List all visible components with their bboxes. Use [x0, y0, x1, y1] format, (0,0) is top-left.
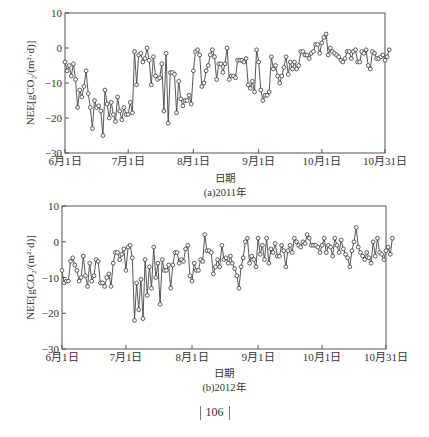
page-number: 106 [0, 405, 429, 420]
data-point [224, 256, 228, 260]
data-point [190, 279, 194, 283]
data-point [288, 243, 292, 247]
data-point [177, 79, 181, 83]
data-point [202, 81, 206, 85]
page-number-bar-right [229, 406, 230, 420]
data-point [143, 258, 147, 262]
data-point [128, 243, 132, 247]
data-point [250, 254, 254, 258]
data-point [133, 50, 137, 54]
data-point [328, 46, 332, 50]
data-point [152, 55, 156, 59]
data-point [253, 90, 257, 94]
data-point [69, 74, 73, 78]
data-point [133, 319, 137, 323]
data-point [187, 93, 191, 97]
data-point [73, 263, 77, 267]
data-point [365, 251, 369, 255]
data-point [312, 50, 316, 54]
data-point [235, 274, 239, 278]
x-tick-label: 7月1日 [112, 155, 145, 167]
y-tick-label: −20 [45, 112, 63, 124]
data-point [385, 55, 389, 59]
data-point [373, 254, 377, 258]
data-point [219, 62, 223, 66]
data-point [350, 249, 354, 253]
data-point [154, 276, 158, 280]
data-point [143, 57, 147, 61]
data-point [179, 97, 183, 101]
data-point [274, 64, 278, 68]
data-point [175, 111, 179, 115]
data-point [84, 69, 88, 73]
data-point [318, 51, 322, 55]
data-point [107, 272, 111, 276]
figure-caption: (b)2012年 [202, 381, 245, 394]
data-point [109, 100, 113, 104]
data-point [211, 48, 215, 52]
data-point [186, 243, 190, 247]
data-point [160, 258, 164, 262]
data-point [290, 251, 294, 255]
data-point [303, 242, 307, 246]
data-point [76, 106, 80, 110]
data-point [182, 260, 186, 264]
y-tick-label: −10 [42, 272, 60, 284]
data-point [122, 247, 126, 251]
data-point [165, 269, 169, 273]
data-point [291, 67, 295, 71]
data-point [361, 254, 365, 258]
y-axis-label: NEE[gCO₂/(m²·d)] [24, 235, 37, 320]
data-point [92, 274, 96, 278]
data-point [261, 99, 265, 103]
data-point [225, 46, 229, 50]
data-point [116, 95, 120, 99]
data-point [65, 69, 69, 73]
x-axis-label: 日期 [214, 368, 234, 379]
data-point [386, 245, 390, 249]
figure: −30−20−100106月1日7月1日8月1日9月1日10月1日10月31日N… [0, 0, 429, 437]
data-point [80, 95, 84, 99]
data-point [383, 58, 387, 62]
data-point [252, 258, 256, 262]
data-point [118, 109, 122, 113]
data-point [162, 109, 166, 113]
data-point [316, 245, 320, 249]
data-point [320, 41, 324, 45]
data-point [322, 36, 326, 40]
plot-frame [62, 206, 386, 349]
data-point [335, 243, 339, 247]
data-point [329, 245, 333, 249]
data-point [197, 269, 201, 273]
data-point [145, 294, 149, 298]
data-point [211, 272, 215, 276]
data-point [248, 261, 252, 265]
data-point [244, 57, 248, 61]
data-point [93, 99, 97, 103]
data-point [276, 74, 280, 78]
data-point [111, 261, 115, 265]
data-point [359, 251, 363, 255]
y-axis-label: NEE[gCO₂/(m²·d)] [24, 41, 37, 126]
data-point [82, 85, 86, 89]
data-point [278, 81, 282, 85]
data-point [154, 74, 158, 78]
data-point [333, 236, 337, 240]
data-point [74, 78, 78, 82]
data-point [284, 55, 288, 59]
data-point [339, 238, 343, 242]
data-point [171, 263, 175, 267]
data-point [130, 256, 134, 260]
data-point [369, 261, 373, 265]
data-point [60, 269, 64, 273]
data-point [376, 236, 380, 240]
data-point [88, 261, 92, 265]
data-point [324, 32, 328, 36]
data-point [141, 317, 145, 321]
data-point [354, 48, 358, 52]
data-point [128, 100, 132, 104]
x-tick-label: 10月31日 [364, 351, 408, 363]
data-point [200, 85, 204, 89]
data-point [149, 83, 153, 87]
data-point [158, 76, 162, 80]
